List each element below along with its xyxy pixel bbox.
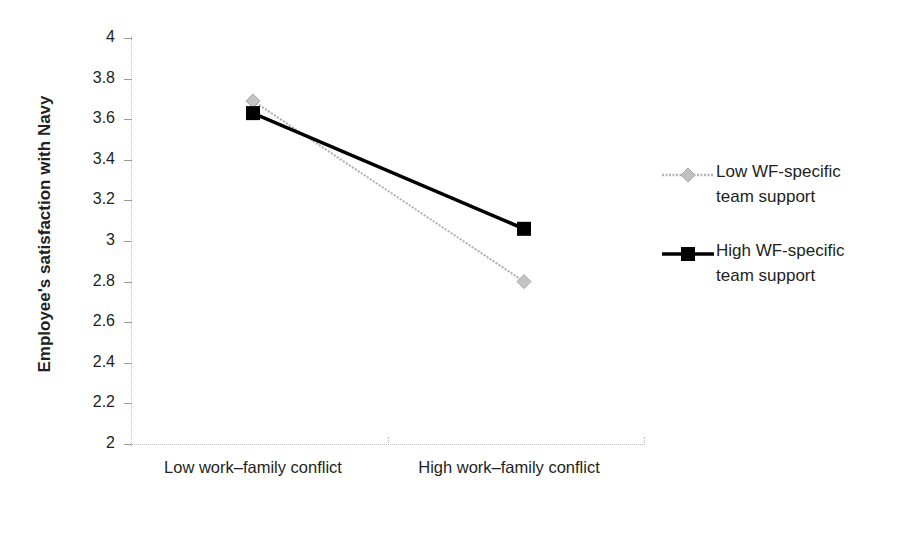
legend-label-high-line1: High WF-specific (716, 241, 844, 260)
legend-label-high-line2: team support (716, 266, 815, 285)
x-axis-category-label-low: Low work–family conflict (138, 456, 368, 478)
data-point-diamond (517, 275, 531, 289)
chart-legend: Low WF-specific team support High WF-spe… (660, 160, 910, 319)
legend-label-low-line2: team support (716, 187, 815, 206)
series-line-low-support (253, 101, 524, 282)
data-point-square (517, 222, 531, 236)
legend-entry-high-support[interactable]: High WF-specific team support (660, 239, 910, 288)
data-point-diamond (246, 94, 260, 108)
chart-figure: Employee's satisfaction with Navy 43.83.… (0, 0, 916, 534)
diamond-marker-icon (660, 164, 716, 186)
x-axis-category-label-high: High work–family conflict (394, 456, 624, 478)
square-marker-icon (660, 243, 716, 265)
legend-label-low-support: Low WF-specific team support (716, 160, 896, 209)
legend-label-low-line1: Low WF-specific (716, 162, 841, 181)
legend-label-high-support: High WF-specific team support (716, 239, 896, 288)
data-point-square (246, 106, 260, 120)
legend-entry-low-support[interactable]: Low WF-specific team support (660, 160, 910, 209)
series-line-high-support (253, 113, 524, 229)
